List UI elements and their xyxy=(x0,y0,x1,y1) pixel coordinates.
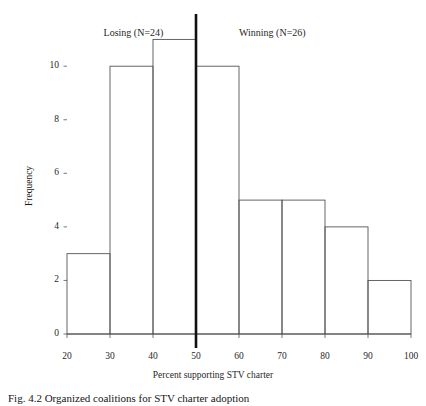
y-tick-label: 0 xyxy=(33,329,59,339)
histogram-plot xyxy=(0,0,426,406)
x-tick-label: 60 xyxy=(224,352,254,362)
figure-container: 0246810 2030405060708090100 Frequency Pe… xyxy=(0,0,426,406)
histogram-bar xyxy=(325,227,368,334)
histogram-bar xyxy=(67,254,110,334)
x-tick-label: 80 xyxy=(310,352,340,362)
x-tick-label: 30 xyxy=(95,352,125,362)
histogram-bar xyxy=(282,200,325,334)
histogram-bar xyxy=(368,280,411,334)
histogram-bar xyxy=(196,66,239,334)
y-tick-label: 6 xyxy=(33,168,59,178)
x-tick-label: 40 xyxy=(138,352,168,362)
figure-caption: Fig. 4.2 Organized coalitions for STV ch… xyxy=(8,392,249,404)
y-tick-label: 10 xyxy=(33,61,59,71)
y-tick-label: 4 xyxy=(33,222,59,232)
x-tick-label: 90 xyxy=(353,352,383,362)
histogram-bar xyxy=(110,66,153,334)
x-tick-label: 50 xyxy=(181,352,211,362)
bars-group xyxy=(67,39,411,334)
y-tick-label: 2 xyxy=(33,275,59,285)
y-tick-label: 8 xyxy=(33,115,59,125)
x-axis-title: Percent supporting STV charter xyxy=(0,371,426,381)
y-axis-title: Frequency xyxy=(24,166,34,206)
x-tick-label: 20 xyxy=(52,352,82,362)
annotation-losing-group: Losing (N=24) xyxy=(104,28,164,38)
x-tick-label: 70 xyxy=(267,352,297,362)
axes-group xyxy=(64,66,412,338)
histogram-bar xyxy=(239,200,282,334)
annotation-winning-group: Winning (N=26) xyxy=(239,28,306,38)
x-tick-label: 100 xyxy=(396,352,426,362)
histogram-bar xyxy=(153,39,196,334)
